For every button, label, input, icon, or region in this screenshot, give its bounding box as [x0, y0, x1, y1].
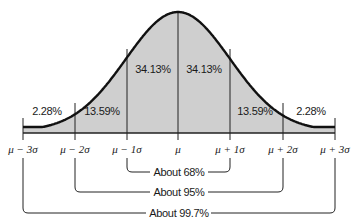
region-label: 2.28% [32, 105, 62, 117]
region-label: 13.59% [237, 105, 273, 117]
region-label: 34.13% [186, 63, 222, 75]
region-label: 13.59% [84, 105, 120, 117]
bracket-label-997: About 99.7% [149, 207, 209, 219]
tick-label: μ + 2σ [267, 143, 298, 155]
tick-label: μ − 2σ [59, 143, 90, 155]
bracket-label-95: About 95% [153, 186, 205, 198]
tick-label: μ − 3σ [7, 143, 38, 155]
tick-label: μ + 1σ [214, 143, 245, 155]
tick-label: μ [174, 143, 181, 155]
normal-distribution-diagram: 2.28% 13.59% 34.13% 34.13% 13.59% 2.28% … [0, 0, 359, 223]
curve-area [23, 12, 335, 133]
region-label: 34.13% [135, 63, 171, 75]
bracket-label-68: About 68% [153, 166, 205, 178]
tick-label: μ − 1σ [111, 143, 142, 155]
tick-label: μ + 3σ [319, 143, 350, 155]
region-label: 2.28% [296, 105, 326, 117]
